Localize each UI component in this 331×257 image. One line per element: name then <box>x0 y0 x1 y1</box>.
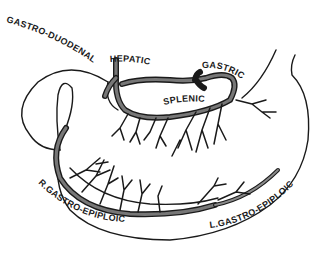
label-splenic: SPLENIC <box>162 93 205 107</box>
stomach-artery-diagram: GASTRO-DUODENAL HEPATIC GASTRIC SPLENIC … <box>0 0 331 257</box>
label-gastro-duodenal: GASTRO-DUODENAL <box>6 14 99 64</box>
